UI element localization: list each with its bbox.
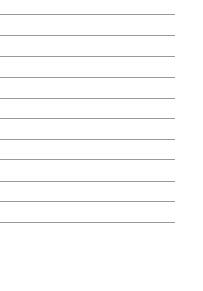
- ruled-sheet: [0, 0, 203, 291]
- ruled-line: [0, 201, 175, 202]
- ruled-line: [0, 118, 175, 119]
- ruled-line: [0, 222, 175, 223]
- ruled-line: [0, 159, 175, 160]
- ruled-line: [0, 98, 175, 99]
- ruled-line: [0, 139, 175, 140]
- ruled-line: [0, 35, 175, 36]
- ruled-line: [0, 77, 175, 78]
- ruled-line: [0, 14, 175, 15]
- ruled-line: [0, 181, 175, 182]
- ruled-line: [0, 56, 175, 57]
